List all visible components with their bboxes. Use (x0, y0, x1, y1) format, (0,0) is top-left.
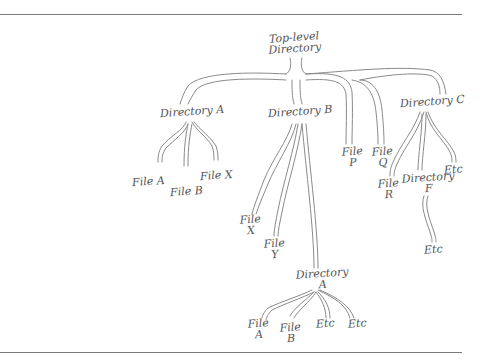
node-nested-directory-a: Directory A (295, 266, 349, 292)
node-file-b: File B (170, 185, 203, 198)
node-file-x-dir-a: File X (200, 169, 233, 182)
node-nested-file-b: File B (279, 321, 302, 344)
node-top-level-directory: Top-level Directory (267, 30, 321, 56)
node-file-x-dir-b: File X (239, 213, 262, 236)
node-file-y: File Y (263, 237, 286, 260)
node-nested-etc-1: Etc (316, 317, 335, 329)
node-nested-etc-2: Etc (348, 317, 367, 329)
node-dir-c-etc: Etc (444, 163, 463, 175)
node-nested-file-a: File A (247, 317, 270, 340)
node-file-a: File A (132, 175, 165, 188)
node-file-q: File Q (371, 145, 394, 168)
node-file-r: File R (377, 177, 400, 200)
node-file-p: File P (341, 145, 364, 168)
node-dir-f-etc: Etc (424, 243, 443, 255)
